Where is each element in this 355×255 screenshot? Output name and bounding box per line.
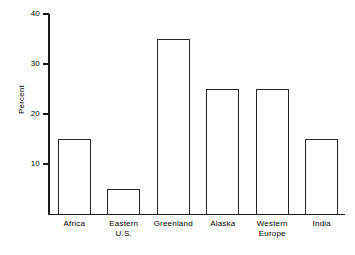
- bar: [107, 189, 140, 214]
- bar: [58, 139, 91, 214]
- bar: [206, 89, 239, 214]
- x-axis-label: India: [291, 219, 353, 229]
- bar-chart: Percent 10203040 AfricaEasternU.S.Greenl…: [0, 0, 355, 255]
- x-axis-label-line: India: [291, 219, 353, 229]
- x-axis-label-line: U.S.: [93, 229, 155, 239]
- plot-area: [0, 0, 355, 255]
- bar: [305, 139, 338, 214]
- bar: [157, 39, 190, 214]
- bar: [256, 89, 289, 214]
- x-axis-label-line: Europe: [242, 229, 304, 239]
